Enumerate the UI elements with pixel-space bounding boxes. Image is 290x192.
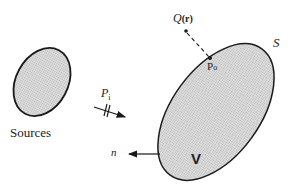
observer-argument: (r) xyxy=(182,13,193,24)
surface-label: S xyxy=(273,36,280,49)
observer-ray xyxy=(187,33,210,58)
diagram-canvas xyxy=(0,0,290,192)
sources-region xyxy=(2,38,82,126)
sources-label: Sources xyxy=(10,126,51,139)
volume-label: V xyxy=(191,151,201,166)
surface-point-label: Po xyxy=(207,61,217,72)
surface-point-subscript: o xyxy=(213,63,217,72)
incident-subscript: i xyxy=(108,93,110,102)
incident-label: Pi xyxy=(101,87,111,102)
normal-label: n xyxy=(111,147,117,158)
observer-point xyxy=(184,29,188,33)
scattering-volume xyxy=(135,23,290,192)
observer-label: Q(r) xyxy=(173,12,193,24)
observer-symbol: Q xyxy=(173,11,182,25)
